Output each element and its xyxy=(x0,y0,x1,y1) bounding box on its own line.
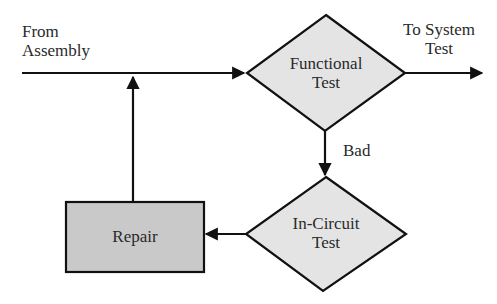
functional-test-line1: Functional xyxy=(266,54,386,73)
input-label-line1: From xyxy=(22,22,90,41)
in-circuit-test-line1: In-Circuit xyxy=(266,214,386,233)
bad-edge-label: Bad xyxy=(343,141,370,160)
in-circuit-test-line2: Test xyxy=(266,233,386,252)
functional-test-line2: Test xyxy=(266,73,386,92)
in-circuit-test-label: In-Circuit Test xyxy=(266,214,386,252)
output-label-line2: Test xyxy=(384,39,494,58)
flowchart-canvas: From Assembly To System Test Functional … xyxy=(0,0,497,304)
output-label: To System Test xyxy=(384,20,494,58)
input-label-line2: Assembly xyxy=(22,41,90,60)
output-label-line1: To System xyxy=(384,20,494,39)
repair-label: Repair xyxy=(66,227,204,246)
functional-test-label: Functional Test xyxy=(266,54,386,92)
input-label: From Assembly xyxy=(22,22,90,60)
